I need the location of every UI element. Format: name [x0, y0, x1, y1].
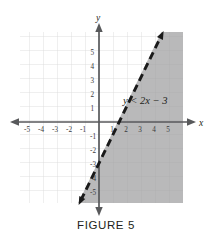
y-tick-label: 3: [90, 77, 94, 85]
y-tick-label: 5: [90, 49, 94, 57]
y-tick-label: -4: [90, 175, 96, 183]
x-tick-label: -5: [24, 126, 30, 134]
figure-caption: FIGURE 5: [0, 219, 212, 231]
x-tick-label: 5: [166, 126, 170, 134]
y-tick-label: 1: [90, 105, 94, 113]
x-tick-label: -3: [52, 126, 58, 134]
y-tick-label: -3: [90, 161, 96, 169]
x-tick-label: 1: [110, 126, 114, 134]
inequality-graph: -5 -4 -3 -2 -1 1 2 3 4 5 5 4 3 2 1 -1 -2…: [0, 0, 212, 244]
y-tick-label: -1: [90, 133, 96, 141]
y-tick-label: 4: [90, 63, 94, 71]
x-tick-label: 4: [152, 126, 156, 134]
x-tick-label: -2: [66, 126, 72, 134]
figure-container: -5 -4 -3 -2 -1 1 2 3 4 5 5 4 3 2 1 -1 -2…: [0, 0, 212, 244]
x-tick-label: 3: [138, 126, 142, 134]
y-tick-label: 2: [90, 91, 94, 99]
y-axis-label: y: [95, 13, 101, 23]
y-tick-label: -5: [90, 189, 96, 197]
y-tick-label: -2: [90, 147, 96, 155]
x-tick-label: -4: [38, 126, 44, 134]
inequality-annotation: y < 2x − 3: [122, 95, 168, 106]
x-tick-label: 2: [124, 126, 128, 134]
x-tick-label: -1: [80, 126, 86, 134]
x-axis-label: x: [198, 118, 204, 128]
